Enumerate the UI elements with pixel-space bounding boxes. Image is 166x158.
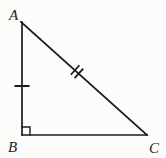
vertex-label-c: C	[149, 140, 160, 156]
vertex-label-a: A	[8, 7, 19, 23]
triangle-diagram: A B C	[0, 0, 166, 158]
vertex-label-b: B	[8, 139, 17, 155]
triangle-stroke-group	[16, 22, 148, 135]
right-triangle-figure: A B C	[0, 0, 166, 158]
right-angle-marker	[22, 127, 30, 135]
side-ac-line	[21, 22, 147, 135]
